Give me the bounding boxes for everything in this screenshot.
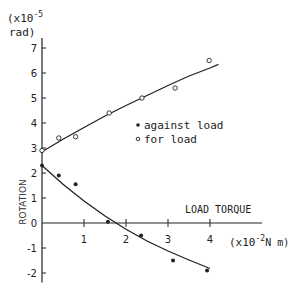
y-tick-label: 6 bbox=[31, 68, 37, 79]
legend-label-against-load: against load bbox=[144, 119, 223, 132]
y-axis-title: ROTATION bbox=[18, 179, 28, 225]
x-axis-title: LOAD TORQUE bbox=[185, 204, 251, 215]
legend: against load for load bbox=[136, 119, 223, 146]
for-load-point bbox=[40, 148, 44, 152]
axes: -2-1012345671234 bbox=[27, 38, 262, 283]
x-tick-label: 3 bbox=[165, 234, 171, 245]
y-tick-label: 7 bbox=[31, 43, 37, 54]
y-unit-label: (x10-5 bbox=[7, 10, 43, 25]
legend-open-circle-icon bbox=[136, 137, 140, 141]
against-load-point bbox=[40, 164, 44, 168]
against-load-point bbox=[106, 220, 110, 224]
for-load-point bbox=[140, 96, 144, 100]
x-tick-label: 1 bbox=[81, 234, 87, 245]
legend-label-for-load: for load bbox=[144, 133, 197, 146]
against-load-point bbox=[205, 269, 209, 273]
y-tick-label: -1 bbox=[27, 243, 37, 254]
y-tick-label: 3 bbox=[31, 143, 37, 154]
x-tick-label: 2 bbox=[123, 234, 129, 245]
against-load-curve bbox=[42, 166, 210, 269]
y-tick-label: 0 bbox=[31, 218, 37, 229]
fit-curves bbox=[42, 64, 218, 268]
y-tick-label: -2 bbox=[27, 268, 37, 279]
x-unit-label: (x10-2N m) bbox=[229, 234, 289, 249]
for-load-point bbox=[73, 135, 77, 139]
for-load-point bbox=[107, 111, 111, 115]
for-load-point bbox=[173, 86, 177, 90]
y-tick-label: 2 bbox=[31, 168, 37, 179]
y-tick-label: 4 bbox=[31, 118, 37, 129]
against-load-point bbox=[171, 259, 175, 263]
y-tick-label: 1 bbox=[31, 193, 37, 204]
against-load-point bbox=[139, 234, 143, 238]
against-load-point bbox=[74, 182, 78, 186]
against-load-point bbox=[57, 174, 61, 178]
for-load-point bbox=[207, 58, 211, 62]
y-unit-label-rad: rad) bbox=[9, 26, 36, 39]
y-tick-label: 5 bbox=[31, 93, 37, 104]
for-load-point bbox=[57, 136, 61, 140]
x-tick-label: 4 bbox=[207, 234, 213, 245]
chart-canvas: -2-1012345671234 (x10-5 rad) ROTATION LO… bbox=[0, 0, 301, 294]
legend-filled-circle-icon bbox=[136, 123, 140, 127]
